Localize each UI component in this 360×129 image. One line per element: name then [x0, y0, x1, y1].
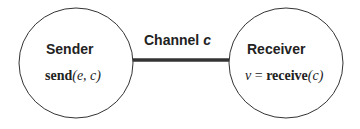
send-args: (e, c) [72, 68, 101, 83]
sender-operation: send(e, c) [45, 68, 101, 84]
receiver-node [229, 8, 343, 118]
receiver-title: Receiver [247, 41, 305, 57]
sender-node [19, 8, 133, 118]
channel-label-text: Channel [144, 32, 203, 48]
channel-label: Channel c [144, 32, 211, 48]
receiver-operation: v = receive(c) [245, 68, 323, 84]
sender-title: Sender [46, 41, 93, 57]
diagram-canvas [0, 0, 360, 129]
channel-var: c [203, 32, 211, 48]
receive-function: receive [266, 68, 308, 83]
send-function: send [45, 68, 72, 83]
receive-args: (c) [308, 68, 324, 83]
equals-sign: = [251, 68, 266, 83]
